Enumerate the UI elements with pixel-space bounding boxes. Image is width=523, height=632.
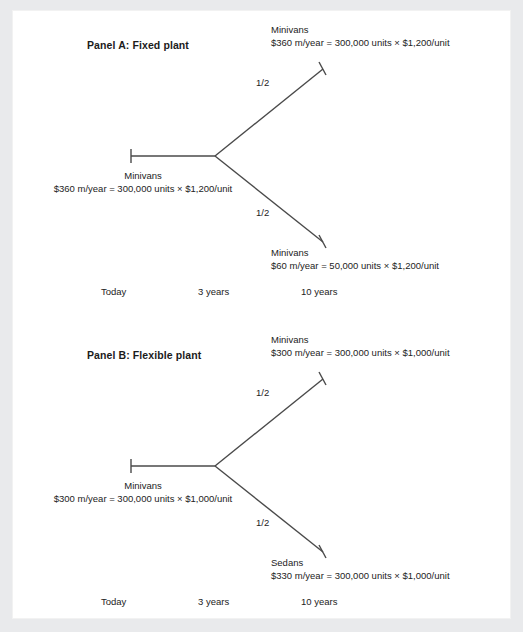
panel-a-trunk-label: Minivans $360 m/year = 300,000 units × $… (28, 169, 258, 195)
outcome-product: Minivans (271, 23, 450, 36)
outcome-value: $60 m/year = 50,000 units × $1,200/unit (271, 259, 439, 272)
trunk-value: $300 m/year = 300,000 units × $1,000/uni… (28, 492, 258, 505)
panel-a-lower-outcome-label: Minivans $60 m/year = 50,000 units × $1,… (271, 246, 439, 272)
upper-terminal-tick (319, 372, 326, 385)
trunk-product: Minivans (28, 479, 258, 492)
panel-a-timeline-10-years: 10 years (301, 286, 337, 297)
figure-card: Panel A: Fixed plant Minivans $360 m/yea… (13, 11, 510, 618)
panel-a: Panel A: Fixed plant Minivans $360 m/yea… (13, 11, 510, 311)
panel-b-upper-probability: 1/2 (256, 387, 269, 398)
panel-b: Panel B: Flexible plant Minivans $300 m/… (13, 321, 510, 621)
outcome-product: Minivans (271, 246, 439, 259)
panel-b-timeline-10-years: 10 years (301, 596, 337, 607)
upper-terminal-tick (319, 62, 326, 75)
outcome-value: $360 m/year = 300,000 units × $1,200/uni… (271, 36, 450, 49)
outcome-value: $300 m/year = 300,000 units × $1,000/uni… (271, 346, 450, 359)
panel-b-lower-outcome-label: Sedans $330 m/year = 300,000 units × $1,… (271, 556, 450, 582)
panel-a-timeline-today: Today (101, 286, 126, 297)
panel-b-timeline-3-years: 3 years (198, 596, 229, 607)
panel-a-timeline-3-years: 3 years (198, 286, 229, 297)
outcome-product: Sedans (271, 556, 450, 569)
outcome-value: $330 m/year = 300,000 units × $1,000/uni… (271, 569, 450, 582)
trunk-value: $360 m/year = 300,000 units × $1,200/uni… (28, 182, 258, 195)
panel-b-trunk-label: Minivans $300 m/year = 300,000 units × $… (28, 479, 258, 505)
panel-a-lower-probability: 1/2 (256, 207, 269, 218)
trunk-product: Minivans (28, 169, 258, 182)
panel-a-upper-probability: 1/2 (256, 77, 269, 88)
outcome-product: Minivans (271, 333, 450, 346)
panel-a-upper-outcome-label: Minivans $360 m/year = 300,000 units × $… (271, 23, 450, 49)
panel-b-timeline-today: Today (101, 596, 126, 607)
panel-b-lower-probability: 1/2 (256, 517, 269, 528)
panel-b-upper-outcome-label: Minivans $300 m/year = 300,000 units × $… (271, 333, 450, 359)
